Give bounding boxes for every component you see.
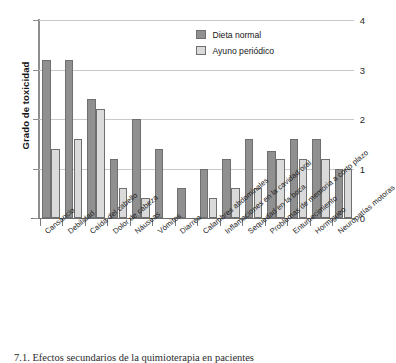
x-tick-mark — [287, 219, 288, 226]
bar — [132, 119, 141, 218]
x-tick-mark — [220, 219, 221, 226]
bar — [209, 198, 218, 218]
bar — [290, 139, 299, 218]
bar — [276, 159, 285, 218]
x-tick-mark — [265, 219, 266, 226]
bar — [96, 109, 105, 218]
bar — [155, 149, 164, 218]
figure-caption: 7.1. Efectos secundarios de la quimioter… — [14, 352, 359, 363]
bar — [344, 169, 353, 219]
legend-label: Ayuno periódico — [213, 46, 274, 56]
bar — [245, 139, 254, 218]
legend-swatch-icon — [196, 30, 206, 40]
x-tick-mark — [85, 219, 86, 226]
bar — [222, 159, 231, 218]
bar — [299, 159, 308, 218]
x-tick-mark — [242, 219, 243, 226]
bar — [119, 188, 128, 218]
bar — [42, 60, 51, 218]
x-tick-mark — [40, 219, 41, 226]
bar — [231, 188, 240, 218]
x-tick-mark — [130, 219, 131, 226]
x-tick-mark — [332, 219, 333, 226]
bar — [200, 169, 209, 219]
bar — [110, 159, 119, 218]
y-axis-title: Grado de toxicidad — [20, 36, 31, 176]
gridline — [39, 70, 354, 71]
gridline — [39, 20, 354, 21]
bar — [141, 198, 150, 218]
bar — [312, 139, 321, 218]
chart-legend: Dieta normalAyuno periódico — [196, 28, 316, 60]
bar — [51, 149, 60, 218]
bar — [177, 188, 186, 218]
bar — [335, 169, 344, 219]
x-tick-mark — [62, 219, 63, 226]
legend-item: Dieta normal — [196, 28, 316, 41]
x-axis-line — [31, 218, 356, 219]
legend-item: Ayuno periódico — [196, 44, 316, 57]
bar — [321, 159, 330, 218]
x-tick-mark — [197, 219, 198, 226]
legend-label: Dieta normal — [213, 30, 262, 40]
bar — [267, 151, 276, 218]
bar — [87, 99, 96, 218]
legend-swatch-icon — [196, 46, 206, 56]
y-tick-mark — [33, 218, 39, 219]
bar — [74, 139, 83, 218]
x-tick-mark — [310, 219, 311, 226]
x-tick-mark — [175, 219, 176, 226]
x-tick-mark — [152, 219, 153, 226]
x-tick-mark — [107, 219, 108, 226]
bar — [65, 60, 74, 218]
bar — [254, 188, 263, 218]
